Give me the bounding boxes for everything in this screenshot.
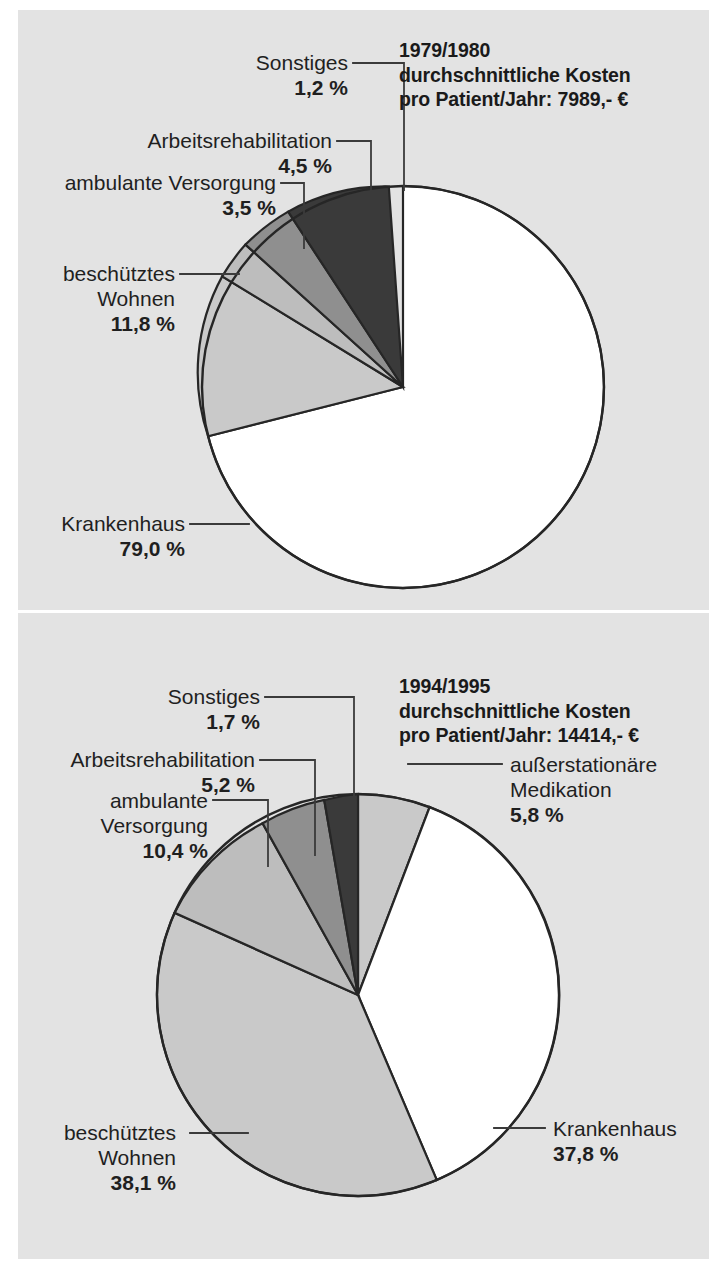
pie2-label-ausserstationaere-medikation-line2: Medikation bbox=[510, 777, 720, 802]
chart-title-1994-line3: pro Patient/Jahr: 14414,- € bbox=[399, 723, 639, 748]
pie2-label-arbeitsrehabilitation-name: Arbeitsrehabilitation bbox=[0, 747, 255, 772]
pie2-label-ambulante-versorgung-value: 10,4 % bbox=[22, 838, 208, 863]
pie2-label-sonstiges-value: 1,7 % bbox=[40, 709, 260, 734]
pie1-label-krankenhaus-name: Krankenhaus bbox=[10, 511, 185, 536]
chart-title-1979-line3: pro Patient/Jahr: 7989,- € bbox=[399, 87, 631, 112]
pie1-label-beschuetztes-wohnen-line1: beschütztes bbox=[10, 261, 175, 286]
pie2-label-krankenhaus: Krankenhaus 37,8 % bbox=[553, 1116, 723, 1166]
pie1-label-krankenhaus: Krankenhaus 79,0 % bbox=[10, 511, 185, 561]
pie2-label-sonstiges-name: Sonstiges bbox=[40, 684, 260, 709]
pie1-label-ambulante-versorgung: ambulante Versorgung 3,5 % bbox=[14, 170, 276, 220]
chart-title-1979: 1979/1980 durchschnittliche Kosten pro P… bbox=[399, 38, 631, 112]
pie2-label-ambulante-versorgung-line2: Versorgung bbox=[22, 813, 208, 838]
pie2-label-ambulante-versorgung-line1: ambulante bbox=[22, 788, 208, 813]
pie1-label-beschuetztes-wohnen-line2: Wohnen bbox=[10, 286, 175, 311]
pie2-label-krankenhaus-value: 37,8 % bbox=[553, 1141, 723, 1166]
figure-page: 1979/1980 durchschnittliche Kosten pro P… bbox=[0, 0, 727, 1269]
chart-title-1994-line2: durchschnittliche Kosten bbox=[399, 699, 639, 724]
pie2-label-krankenhaus-name: Krankenhaus bbox=[553, 1116, 723, 1141]
pie2-label-ausserstationaere-medikation-line1: außerstationäre bbox=[510, 752, 720, 777]
chart-title-1979-line2: durchschnittliche Kosten bbox=[399, 63, 631, 88]
pie1-label-krankenhaus-value: 79,0 % bbox=[10, 536, 185, 561]
pie1-label-arbeitsrehabilitation-name: Arbeitsrehabilitation bbox=[42, 128, 332, 153]
pie2-label-beschuetztes-wohnen-value: 38,1 % bbox=[10, 1170, 176, 1195]
pie1-label-sonstiges-value: 1,2 % bbox=[120, 75, 348, 100]
pie1-label-ambulante-versorgung-name: ambulante Versorgung bbox=[14, 170, 276, 195]
pie2-label-beschuetztes-wohnen-line2: Wohnen bbox=[10, 1145, 176, 1170]
chart-title-1994-line1: 1994/1995 bbox=[399, 674, 639, 699]
pie1-label-beschuetztes-wohnen-value: 11,8 % bbox=[10, 311, 175, 336]
chart-title-1979-line1: 1979/1980 bbox=[399, 38, 631, 63]
pie2-label-ausserstationaere-medikation-value: 5,8 % bbox=[510, 802, 720, 827]
chart-title-1994: 1994/1995 durchschnittliche Kosten pro P… bbox=[399, 674, 639, 748]
pie1-label-sonstiges-name: Sonstiges bbox=[120, 50, 348, 75]
pie2-label-ambulante-versorgung: ambulante Versorgung 10,4 % bbox=[22, 788, 208, 863]
pie2-label-ausserstationaere-medikation: außerstationäre Medikation 5,8 % bbox=[510, 752, 720, 827]
pie1-label-beschuetztes-wohnen: beschütztes Wohnen 11,8 % bbox=[10, 261, 175, 336]
pie2-label-beschuetztes-wohnen-line1: beschütztes bbox=[10, 1120, 176, 1145]
pie2-label-sonstiges: Sonstiges 1,7 % bbox=[40, 684, 260, 734]
pie1-label-ambulante-versorgung-value: 3,5 % bbox=[14, 195, 276, 220]
pie2-label-beschuetztes-wohnen: beschütztes Wohnen 38,1 % bbox=[10, 1120, 176, 1195]
pie1-label-sonstiges: Sonstiges 1,2 % bbox=[120, 50, 348, 100]
